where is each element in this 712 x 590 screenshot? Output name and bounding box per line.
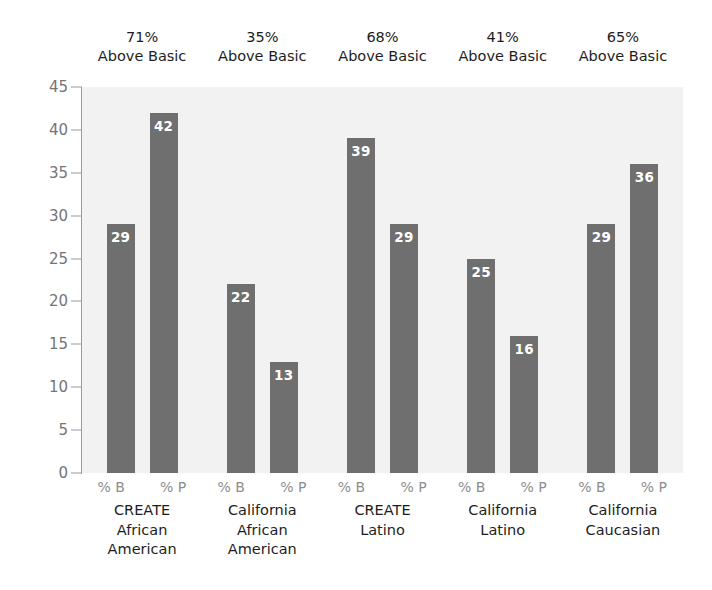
above-basic-annotation: 35%Above Basic [202, 28, 322, 80]
bar-value-label: 29 [587, 229, 615, 245]
category-label-line: Latino [322, 521, 442, 541]
above-basic-annotation: 65%Above Basic [563, 28, 683, 80]
y-axis-tick-label: 10 [49, 378, 68, 396]
category-label-line: American [82, 540, 202, 560]
category-label-line: African [202, 521, 322, 541]
above-basic-annotation: 71%Above Basic [82, 28, 202, 80]
bar: 29 [107, 224, 135, 473]
category-label-line: African [82, 521, 202, 541]
bar: 22 [227, 284, 255, 473]
above-basic-percent: 41% [443, 28, 563, 47]
series-sublabels: % B% P [563, 478, 683, 496]
y-axis-tick-mark [71, 129, 82, 130]
y-axis-tick-mark [71, 87, 82, 88]
bar-value-label: 16 [510, 341, 538, 357]
series-sublabels: % B% P [202, 478, 322, 496]
series-sublabel: % P [156, 478, 190, 496]
y-axis-tick-mark [71, 387, 82, 388]
series-sublabel: % P [397, 478, 431, 496]
y-axis-tick-mark [71, 344, 82, 345]
bar: 36 [630, 164, 658, 473]
series-sublabel: % B [575, 478, 609, 496]
bar: 25 [467, 259, 495, 473]
above-basic-annotation: 68%Above Basic [322, 28, 442, 80]
series-sublabel: % B [455, 478, 489, 496]
y-axis-tick-label: 45 [49, 78, 68, 96]
category-label: CaliforniaLatino [443, 501, 563, 540]
series-sublabel: % P [637, 478, 671, 496]
y-axis-tick-label: 25 [49, 250, 68, 268]
y-axis-tick-mark [71, 430, 82, 431]
y-axis-tick-label: 20 [49, 292, 68, 310]
x-axis-group: % B% PCaliforniaAfricanAmerican [202, 478, 322, 588]
bar: 29 [587, 224, 615, 473]
category-label-line: California [443, 501, 563, 521]
bar-value-label: 25 [467, 264, 495, 280]
above-basic-percent: 65% [563, 28, 683, 47]
y-axis-tick-mark [71, 258, 82, 259]
bar-value-label: 39 [347, 143, 375, 159]
bar: 13 [270, 362, 298, 474]
above-basic-annotations: 71%Above Basic35%Above Basic68%Above Bas… [82, 28, 683, 80]
bar-value-label: 36 [630, 169, 658, 185]
bar-group: 3929 [322, 87, 442, 473]
category-label: CaliforniaCaucasian [563, 501, 683, 540]
above-basic-percent: 35% [202, 28, 322, 47]
y-axis-tick-label: 30 [49, 207, 68, 225]
bar: 29 [390, 224, 418, 473]
series-sublabel: % B [214, 478, 248, 496]
series-sublabels: % B% P [82, 478, 202, 496]
y-axis-tick-mark [71, 473, 82, 474]
category-label: CaliforniaAfricanAmerican [202, 501, 322, 560]
category-label-line: California [563, 501, 683, 521]
above-basic-caption: Above Basic [322, 47, 442, 66]
bar-value-label: 29 [107, 229, 135, 245]
x-axis-labels: % B% PCREATEAfricanAmerican% B% PCalifor… [82, 478, 683, 588]
above-basic-caption: Above Basic [202, 47, 322, 66]
bar: 39 [347, 138, 375, 473]
bar: 16 [510, 336, 538, 473]
y-axis-tick-label: 35 [49, 164, 68, 182]
series-sublabels: % B% P [322, 478, 442, 496]
series-sublabel: % B [335, 478, 369, 496]
above-basic-caption: Above Basic [563, 47, 683, 66]
bar-value-label: 13 [270, 367, 298, 383]
y-axis-tick-mark [71, 301, 82, 302]
y-axis-tick-mark [71, 215, 82, 216]
category-label-line: CREATE [322, 501, 442, 521]
category-label-line: American [202, 540, 322, 560]
category-label: CREATEAfricanAmerican [82, 501, 202, 560]
series-sublabel: % P [517, 478, 551, 496]
bar-group: 2213 [202, 87, 322, 473]
x-axis-group: % B% PCREATELatino [322, 478, 442, 588]
bar-value-label: 42 [150, 118, 178, 134]
y-axis-tick-label: 15 [49, 335, 68, 353]
series-sublabel: % P [276, 478, 310, 496]
above-basic-annotation: 41%Above Basic [443, 28, 563, 80]
above-basic-caption: Above Basic [443, 47, 563, 66]
series-sublabel: % B [94, 478, 128, 496]
bar-value-label: 22 [227, 289, 255, 305]
category-label-line: California [202, 501, 322, 521]
x-axis-group: % B% PCREATEAfricanAmerican [82, 478, 202, 588]
category-label: CREATELatino [322, 501, 442, 540]
x-axis-group: % B% PCaliforniaCaucasian [563, 478, 683, 588]
bar: 42 [150, 113, 178, 473]
y-axis-tick-mark [71, 172, 82, 173]
x-axis-group: % B% PCaliforniaLatino [443, 478, 563, 588]
bar-value-label: 29 [390, 229, 418, 245]
series-sublabels: % B% P [443, 478, 563, 496]
category-label-line: Caucasian [563, 521, 683, 541]
above-basic-percent: 68% [322, 28, 442, 47]
y-axis-tick-label: 0 [58, 464, 68, 482]
category-label-line: CREATE [82, 501, 202, 521]
bar-group: 2936 [563, 87, 683, 473]
bar-chart: 71%Above Basic35%Above Basic68%Above Bas… [0, 0, 712, 590]
bar-group: 2942 [82, 87, 202, 473]
above-basic-caption: Above Basic [82, 47, 202, 66]
category-label-line: Latino [443, 521, 563, 541]
bars-layer: 29422213392925162936 [82, 87, 683, 473]
bar-group: 2516 [443, 87, 563, 473]
y-axis-tick-label: 40 [49, 121, 68, 139]
y-axis-tick-label: 5 [58, 421, 68, 439]
